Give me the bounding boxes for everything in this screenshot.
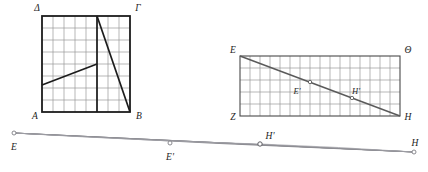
lens-label-e-prime: E' [165,152,175,162]
lens-marker-h [412,150,416,154]
rectangle-point-h-prime [350,96,353,99]
rectangle-label-h: H [404,112,413,122]
rectangle-group: E' H' E Θ Z H [229,45,412,122]
square-label-gamma: Γ [134,3,141,13]
lens-marker-e-prime [168,141,172,145]
square-label-a: A [31,111,38,121]
rectangle-point-e-prime [308,80,311,83]
geometry-figure: Δ Γ A B [0,0,428,172]
rectangle-label-theta: Θ [405,45,412,55]
lens-label-h-prime: H' [265,131,276,141]
rectangle-label-e-prime: E' [292,86,300,96]
figure-canvas: Δ Γ A B [0,0,428,172]
square-shallow-transversal [42,64,97,85]
lens-label-h: H [411,138,420,148]
square-grid [42,16,130,112]
rectangle-label-h-prime: H' [351,86,360,96]
square-label-b: B [136,111,142,121]
lens-marker-e [12,131,16,135]
rectangle-label-e: E [229,45,236,55]
lens-label-e: E [10,142,17,152]
lens-group: E E' H' H [10,131,419,162]
rectangle-label-z: Z [230,112,236,122]
square-label-delta: Δ [33,3,40,13]
lens-marker-h-prime [258,142,262,146]
square-group: Δ Γ A B [31,3,142,121]
